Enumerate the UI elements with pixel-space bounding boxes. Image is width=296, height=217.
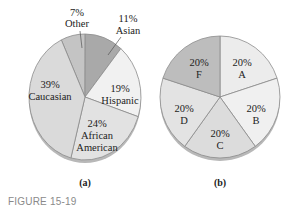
label-c-name: C <box>216 140 223 151</box>
caption-b: (b) <box>214 177 226 189</box>
label-other-pct: 7% <box>70 7 84 18</box>
label-c-pct: 20% <box>210 128 230 139</box>
figure-canvas: 7% Other 11% Asian 19% Hispanic 24% Afri… <box>0 0 296 217</box>
label-african-american-pct: 24% <box>87 118 107 129</box>
label-american: American <box>76 142 118 153</box>
figure-label: FIGURE 15-19 <box>8 196 77 207</box>
label-asian-name: Asian <box>116 25 141 36</box>
label-b-name: B <box>252 115 259 126</box>
label-f-name: F <box>196 69 202 80</box>
label-d-pct: 20% <box>174 103 194 114</box>
label-other-name: Other <box>65 18 89 29</box>
caption-a: (a) <box>79 177 91 189</box>
label-d-name: D <box>180 115 188 126</box>
label-caucasian-name: Caucasian <box>28 91 72 102</box>
label-hispanic-pct: 19% <box>110 83 130 94</box>
label-asian-pct: 11% <box>119 13 138 24</box>
label-f-pct: 20% <box>189 57 209 68</box>
label-hispanic-name: Hispanic <box>101 95 139 106</box>
label-a-name: A <box>238 69 246 80</box>
label-caucasian-pct: 39% <box>40 79 60 90</box>
label-b-pct: 20% <box>246 103 266 114</box>
label-a-pct: 20% <box>232 57 252 68</box>
label-african: African <box>81 130 114 141</box>
